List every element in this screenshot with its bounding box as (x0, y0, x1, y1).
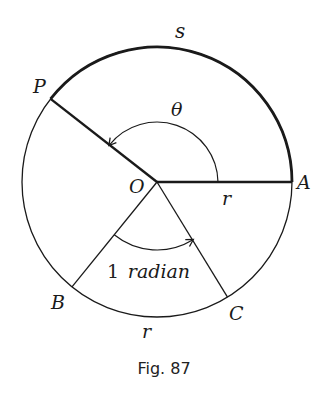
radian-diagram: s P θ O A r 1 radian B C r Fig. 87 (0, 0, 326, 402)
label-theta: θ (171, 98, 183, 120)
label-P: P (32, 75, 47, 97)
label-A: A (295, 171, 311, 193)
radian-angle-arc (114, 235, 192, 250)
label-r-arc: r (142, 320, 153, 342)
label-r-OA: r (222, 187, 233, 209)
label-O: O (129, 175, 145, 197)
figure-caption: Fig. 87 (137, 359, 190, 378)
label-C: C (229, 302, 244, 324)
radius-OP (51, 99, 157, 182)
radian-number: 1 (107, 260, 119, 282)
label-B: B (50, 291, 65, 313)
label-s: s (175, 19, 185, 43)
label-1-radian: 1 radian (107, 260, 190, 282)
theta-angle-arc (110, 122, 219, 182)
radian-word: radian (128, 260, 190, 282)
